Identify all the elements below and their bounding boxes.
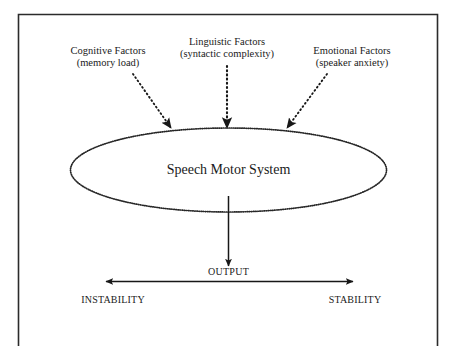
cognitive-factors-label: Cognitive Factors (memory load) bbox=[42, 45, 174, 69]
linguistic-factors-line1: Linguistic Factors bbox=[161, 36, 293, 48]
output-label: OUTPUT bbox=[179, 266, 279, 277]
linguistic-factors-line2: (syntactic complexity) bbox=[161, 48, 293, 60]
figure-canvas: Cognitive Factors (memory load) Linguist… bbox=[0, 0, 454, 346]
instability-label: INSTABILITY bbox=[63, 294, 163, 305]
emotional-factors-arrow bbox=[287, 74, 327, 128]
emotional-factors-line1: Emotional Factors bbox=[286, 45, 418, 57]
cognitive-factors-line2: (memory load) bbox=[42, 57, 174, 69]
emotional-factors-line2: (speaker anxiety) bbox=[286, 57, 418, 69]
cognitive-factors-line1: Cognitive Factors bbox=[42, 45, 174, 57]
stability-label: STABILITY bbox=[305, 294, 405, 305]
emotional-factors-label: Emotional Factors (speaker anxiety) bbox=[286, 45, 418, 69]
cognitive-factors-arrow bbox=[133, 74, 171, 128]
linguistic-factors-label: Linguistic Factors (syntactic complexity… bbox=[161, 36, 293, 60]
speech-motor-system-label: Speech Motor System bbox=[129, 162, 329, 178]
